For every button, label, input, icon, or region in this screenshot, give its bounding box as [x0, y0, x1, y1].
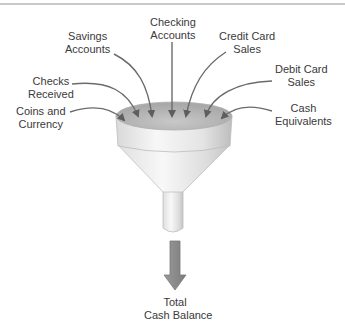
label-line: Accounts	[65, 43, 110, 56]
label-total-cash-balance: Total Cash Balance	[144, 296, 206, 322]
label-savings-accounts: Savings Accounts	[65, 30, 110, 56]
output-arrow	[164, 241, 186, 290]
label-cash-equivalents: Cash Equivalents	[275, 102, 332, 128]
label-line: Cash	[275, 102, 332, 115]
label-line: Cash Balance	[144, 309, 206, 322]
label-coins-currency: Coins and Currency	[16, 105, 66, 131]
label-line: Checking	[150, 16, 196, 29]
label-debit-card-sales: Debit Card Sales	[275, 63, 328, 89]
label-checking-accounts: Checking Accounts	[150, 16, 196, 42]
label-credit-card-sales: Credit Card Sales	[219, 30, 275, 56]
label-line: Checks	[28, 75, 74, 88]
label-line: Sales	[219, 43, 275, 56]
label-line: Equivalents	[275, 115, 332, 128]
label-line: Coins and	[16, 105, 66, 118]
funnel-diagram	[0, 0, 345, 332]
label-line: Savings	[65, 30, 110, 43]
label-line: Sales	[275, 76, 328, 89]
label-line: Currency	[16, 118, 66, 131]
label-line: Accounts	[150, 29, 196, 42]
funnel-rim	[116, 102, 232, 152]
label-line: Debit Card	[275, 63, 328, 76]
label-line: Received	[28, 88, 74, 101]
label-line: Credit Card	[219, 30, 275, 43]
label-checks-received: Checks Received	[28, 75, 74, 101]
label-line: Total	[144, 296, 206, 309]
